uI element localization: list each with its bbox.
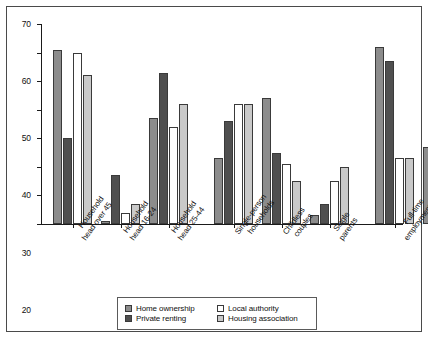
- bar-group: [53, 24, 92, 224]
- bar: [282, 164, 291, 224]
- legend-swatch-icon: [125, 305, 132, 312]
- y-tick: 0: [37, 224, 41, 225]
- y-tick-label: 20: [22, 305, 31, 314]
- bar-group: [149, 24, 188, 224]
- bar: [169, 127, 178, 224]
- legend-swatch-icon: [125, 315, 132, 322]
- y-tick: 70: [37, 24, 41, 25]
- y-tick-label: 70: [22, 20, 31, 29]
- y-axis: [41, 24, 42, 225]
- y-tick: 30: [37, 138, 41, 139]
- y-tick-label: 60: [22, 77, 31, 86]
- legend-swatch-icon: [217, 305, 224, 312]
- bar: [53, 50, 62, 224]
- y-tick-label: 40: [22, 191, 31, 200]
- y-tick: 60: [37, 53, 41, 54]
- legend-swatch-icon: [217, 315, 224, 322]
- legend-label: Home ownership: [136, 304, 195, 313]
- bar: [385, 61, 394, 224]
- bar-group: [310, 24, 349, 224]
- legend-item-housing-association: Housing association: [217, 314, 309, 323]
- chart-legend: Home ownership Local authority Private r…: [117, 297, 317, 330]
- bar: [375, 47, 384, 224]
- y-tick: 40: [37, 110, 41, 111]
- bar-group: [101, 24, 140, 224]
- bar-group: [214, 24, 253, 224]
- bar: [272, 153, 281, 224]
- chart-figure: 010203040506070 Householdhead over 45Hou…: [6, 6, 422, 332]
- y-tick: 50: [37, 81, 41, 82]
- y-tick-label: 50: [22, 134, 31, 143]
- legend-row: Private renting Housing association: [125, 314, 309, 323]
- bar: [111, 175, 120, 224]
- legend-row: Home ownership Local authority: [125, 304, 309, 313]
- legend-item-private-renting: Private renting: [125, 314, 217, 323]
- bar: [83, 75, 92, 224]
- y-tick-label: 30: [22, 248, 31, 257]
- legend-item-home-ownership: Home ownership: [125, 304, 217, 313]
- bar: [320, 204, 329, 224]
- legend-label: Housing association: [228, 314, 298, 323]
- bar: [63, 138, 72, 224]
- y-tick: 20: [37, 167, 41, 168]
- bar: [395, 158, 404, 224]
- bar-group: [423, 24, 428, 224]
- bar-group: [262, 24, 301, 224]
- bar: [159, 73, 168, 224]
- legend-item-local-authority: Local authority: [217, 304, 309, 313]
- legend-label: Private renting: [136, 314, 186, 323]
- plot-area: 010203040506070: [41, 24, 403, 225]
- bar-group: [375, 24, 414, 224]
- bar: [214, 158, 223, 224]
- bar: [101, 221, 110, 224]
- bar: [224, 121, 233, 224]
- bar: [234, 104, 243, 224]
- bar: [73, 53, 82, 224]
- legend-label: Local authority: [228, 304, 279, 313]
- y-tick: 10: [37, 195, 41, 196]
